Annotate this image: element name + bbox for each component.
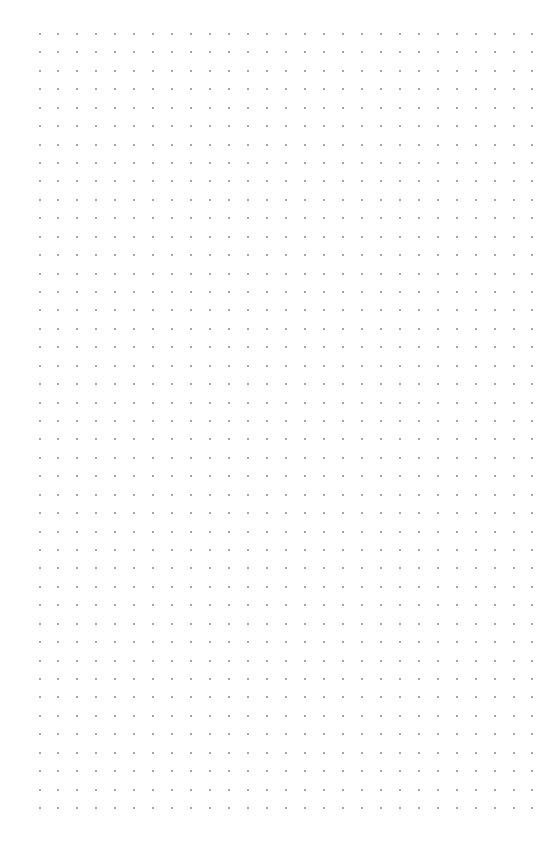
grid-dot [304,733,306,735]
grid-dot [190,88,192,90]
grid-dot [456,309,458,311]
grid-dot [456,144,458,146]
grid-dot [209,770,211,772]
grid-dot [285,586,287,588]
grid-dot [456,715,458,717]
grid-dot [361,604,363,606]
grid-dot [39,420,41,422]
grid-dot [513,107,515,109]
grid-dot [304,236,306,238]
grid-dot [57,678,59,680]
grid-dot [323,567,325,569]
grid-dot [513,180,515,182]
grid-dot [247,549,249,551]
grid-dot [190,254,192,256]
dot-grid-page [0,0,548,843]
grid-dot [76,199,78,201]
grid-dot [475,549,477,551]
grid-dot [247,567,249,569]
grid-dot [531,420,533,422]
grid-dot [531,291,533,293]
grid-dot [361,475,363,477]
grid-dot [342,180,344,182]
grid-dot [266,438,268,440]
grid-dot [171,33,173,35]
grid-dot [513,678,515,680]
grid-dot [475,715,477,717]
grid-dot [475,236,477,238]
grid-dot [494,586,496,588]
grid-dot [531,402,533,404]
grid-dot [39,88,41,90]
grid-dot [456,125,458,127]
grid-dot [190,549,192,551]
grid-dot [57,309,59,311]
grid-dot [437,273,439,275]
grid-dot [114,402,116,404]
grid-dot [342,291,344,293]
grid-dot [57,420,59,422]
grid-dot [418,623,420,625]
grid-dot [531,549,533,551]
grid-dot [380,180,382,182]
grid-dot [285,475,287,477]
grid-dot [531,586,533,588]
grid-dot [39,586,41,588]
grid-dot [437,733,439,735]
grid-dot [531,531,533,533]
grid-dot [513,512,515,514]
grid-dot [209,199,211,201]
grid-dot [95,457,97,459]
grid-dot [266,328,268,330]
grid-dot [76,309,78,311]
grid-dot [228,549,230,551]
grid-dot [285,199,287,201]
grid-dot [380,199,382,201]
grid-dot [380,660,382,662]
grid-dot [228,604,230,606]
grid-dot [190,217,192,219]
grid-dot [437,328,439,330]
grid-dot [399,512,401,514]
grid-dot [285,328,287,330]
grid-dot [209,604,211,606]
grid-dot [95,604,97,606]
grid-dot [152,715,154,717]
grid-dot [323,107,325,109]
grid-dot [513,789,515,791]
grid-dot [531,180,533,182]
grid-dot [494,420,496,422]
grid-dot [209,365,211,367]
grid-dot [190,475,192,477]
grid-dot [323,475,325,477]
grid-dot [209,438,211,440]
grid-dot [418,475,420,477]
grid-dot [380,402,382,404]
grid-dot [304,162,306,164]
grid-dot [531,641,533,643]
grid-dot [342,346,344,348]
grid-dot [266,162,268,164]
grid-dot [190,365,192,367]
grid-dot [152,402,154,404]
grid-dot [342,604,344,606]
grid-dot [190,420,192,422]
grid-dot [531,752,533,754]
grid-dot [228,254,230,256]
grid-dot [133,770,135,772]
grid-dot [380,567,382,569]
grid-dot [399,475,401,477]
grid-dot [190,641,192,643]
grid-dot [133,494,135,496]
grid-dot [304,420,306,422]
grid-dot [475,438,477,440]
grid-dot [399,236,401,238]
grid-dot [456,180,458,182]
grid-dot [171,512,173,514]
grid-dot [494,291,496,293]
grid-dot [133,70,135,72]
grid-dot [531,346,533,348]
grid-dot [95,623,97,625]
grid-dot [39,438,41,440]
grid-dot [285,678,287,680]
